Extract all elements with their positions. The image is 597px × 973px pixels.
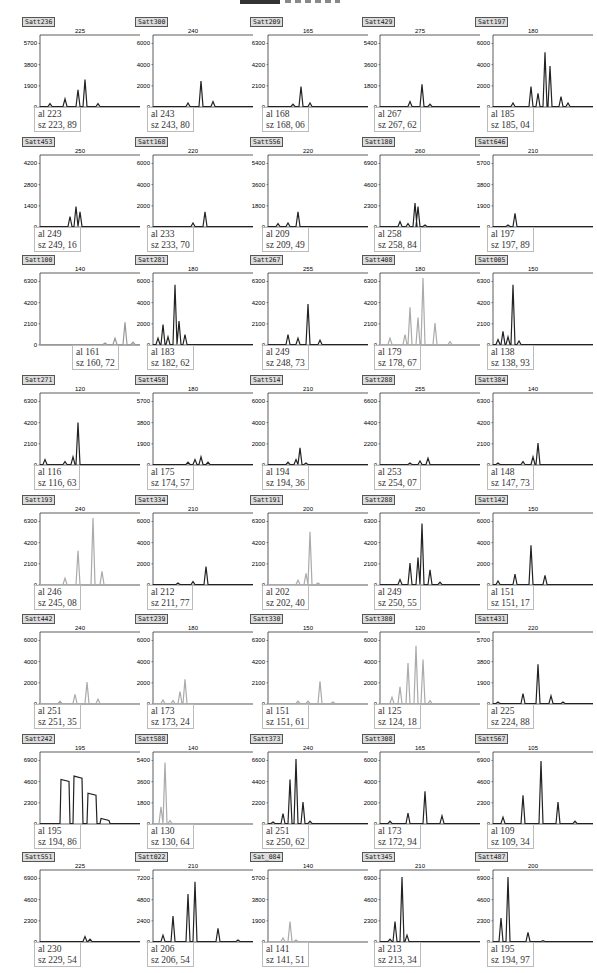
allele-value: al 148 — [491, 467, 530, 478]
chart-panel: Satt4422400200040006000al 251sz 251, 35 — [12, 614, 128, 734]
y-tick-label: 3800 — [252, 897, 266, 903]
chart-panel: Satt5671050230046006900al 109sz 109, 34 — [465, 734, 581, 854]
allele-value: al 179 — [378, 347, 417, 358]
x-tick-label: 150 — [528, 506, 539, 512]
marker-label: Satt431 — [475, 614, 508, 624]
y-tick-label: 4200 — [252, 659, 266, 665]
y-tick-label: 3600 — [137, 779, 151, 785]
y-tick-label: 4000 — [477, 540, 491, 546]
y-tick-label: 6900 — [364, 875, 378, 881]
y-tick-label: 5400 — [364, 40, 378, 46]
y-tick-label: 4600 — [364, 182, 378, 188]
trace-plot: 1400210042006300 — [465, 385, 597, 469]
marker-label: Satt288 — [362, 375, 395, 385]
size-value: sz 224, 88 — [491, 717, 530, 728]
y-tick-label: 6300 — [364, 278, 378, 284]
allele-call-box: al 212sz 211, 77 — [147, 585, 193, 610]
size-value: sz 160, 72 — [76, 358, 115, 369]
header-bar — [240, 0, 280, 4]
x-tick-label: 180 — [188, 386, 199, 392]
y-tick-label: 6300 — [24, 278, 38, 284]
x-tick-label: 120 — [75, 386, 86, 392]
size-value: sz 182, 62 — [151, 358, 190, 369]
marker-label: Satt453 — [22, 137, 55, 147]
x-tick-label: 195 — [75, 745, 86, 751]
chart-panel: Satt1421500200040006000al 151sz 151, 17 — [465, 495, 581, 615]
y-tick-label: 1800 — [252, 203, 266, 209]
y-tick-label: 2100 — [24, 441, 38, 447]
chart-panel: Satt4872000230046006900al 195sz 194, 97 — [465, 852, 581, 972]
allele-value: al 230 — [38, 944, 77, 955]
y-tick-label: 6000 — [252, 398, 266, 404]
chart-panel: Satt2091650210042006300al 168sz 168, 06 — [240, 17, 356, 137]
allele-call-box: al 267sz 267, 62 — [374, 107, 421, 132]
y-tick-label: 4600 — [364, 897, 378, 903]
size-value: sz 245, 08 — [38, 598, 77, 609]
marker-label: Satt514 — [250, 375, 283, 385]
marker-label: Satt209 — [250, 17, 283, 27]
x-tick-label: 255 — [303, 266, 314, 272]
x-tick-label: 210 — [188, 506, 199, 512]
marker-label: Satt242 — [22, 734, 55, 744]
size-value: sz 151, 61 — [266, 717, 305, 728]
allele-call-box: al 151sz 151, 61 — [262, 704, 309, 729]
y-tick-label: 4000 — [477, 62, 491, 68]
y-tick-label: 1900 — [477, 680, 491, 686]
y-tick-label: 2400 — [137, 918, 151, 924]
x-tick-label: 250 — [415, 506, 426, 512]
allele-call-box: al 179sz 178, 67 — [374, 345, 421, 370]
allele-call-box: al 225sz 224, 88 — [487, 704, 534, 729]
marker-label: Satt646 — [475, 137, 508, 147]
allele-value: al 185 — [491, 109, 530, 120]
y-tick-label: 6000 — [24, 637, 38, 643]
size-value: sz 213, 34 — [378, 955, 417, 966]
allele-value: al 151 — [491, 587, 530, 598]
y-tick-label: 4400 — [364, 420, 378, 426]
allele-call-box: al 175sz 174, 57 — [147, 465, 194, 490]
size-value: sz 138, 93 — [491, 358, 530, 369]
signal-trace — [493, 664, 593, 703]
x-tick-label: 250 — [75, 148, 86, 154]
trace-plot: 1400180036005400 — [125, 744, 257, 828]
signal-trace — [153, 567, 253, 585]
marker-label: Satt373 — [250, 734, 283, 744]
x-tick-label: 180 — [188, 625, 199, 631]
trace-plot: 1800200040006000 — [465, 27, 597, 111]
allele-value: al 233 — [151, 229, 190, 240]
allele-value: al 209 — [266, 229, 305, 240]
marker-label: Satt100 — [22, 255, 55, 265]
allele-value: al 251 — [38, 706, 77, 717]
chart-panel: Satt2421950230046006900al 195sz 194, 86 — [12, 734, 128, 854]
size-value: sz 173, 24 — [151, 717, 190, 728]
y-tick-label: 2300 — [364, 203, 378, 209]
size-value: sz 202, 40 — [266, 598, 305, 609]
allele-value: al 253 — [378, 467, 417, 478]
y-tick-label: 6300 — [24, 518, 38, 524]
y-tick-label: 3600 — [364, 62, 378, 68]
chart-panel: Satt1802600230046006900al 258sz 258, 84 — [352, 137, 468, 257]
y-tick-label: 3800 — [137, 420, 151, 426]
x-tick-label: 210 — [528, 148, 539, 154]
y-tick-label: 6900 — [24, 875, 38, 881]
x-tick-label: 210 — [415, 863, 426, 869]
allele-call-box: al 195sz 194, 97 — [487, 942, 534, 967]
size-value: sz 130, 64 — [151, 837, 190, 848]
y-tick-label: 4000 — [137, 540, 151, 546]
x-tick-label: 210 — [188, 863, 199, 869]
y-tick-label: 6300 — [252, 637, 266, 643]
y-tick-label: 4000 — [137, 182, 151, 188]
chart-panel: Satt0051500210042006300al 138sz 138, 93 — [465, 255, 581, 375]
y-tick-label: 1800 — [364, 83, 378, 89]
y-tick-label: 0 — [34, 342, 38, 348]
marker-label: Satt442 — [22, 614, 55, 624]
x-tick-label: 120 — [415, 625, 426, 631]
allele-value: al 249 — [266, 347, 305, 358]
y-tick-label: 4200 — [24, 160, 38, 166]
size-value: sz 194, 36 — [266, 478, 305, 489]
x-tick-label: 180 — [188, 266, 199, 272]
chart-panel: Satt1001400210042006300al 161sz 160, 72 — [12, 255, 128, 375]
chart-panel: Satt3081650200040006000al 173sz 172, 94 — [352, 734, 468, 854]
allele-call-box: al 173sz 173, 24 — [147, 704, 194, 729]
x-tick-label: 165 — [415, 745, 426, 751]
chart-panel: Satt2711200210042006300al 116sz 116, 63 — [12, 375, 128, 495]
